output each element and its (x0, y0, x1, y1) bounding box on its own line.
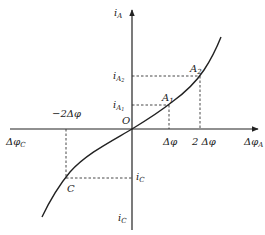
guide-lines (66, 76, 200, 178)
x-negative-label: ΔφC (5, 136, 26, 149)
tick-iA1: iA1 (113, 99, 124, 112)
x-positive-label: ΔφA (243, 136, 263, 149)
tick-2-delta-phi: 2 Δφ (191, 136, 216, 147)
tick-neg-2-delta-phi: −2Δφ (52, 108, 81, 119)
tick-iC: iC (136, 171, 145, 184)
point-A2-label: A2 (189, 63, 202, 76)
diagram-canvas: iA iC ΔφA ΔφC O Δφ 2 Δφ −2Δφ iA2 iA1 iC … (0, 0, 265, 235)
y-negative-label: iC (118, 212, 127, 225)
point-C-label: C (67, 183, 75, 194)
y-positive-label: iA (114, 7, 122, 20)
tick-iA2: iA2 (113, 70, 124, 83)
origin-label: O (122, 115, 130, 126)
point-A1-label: A1 (161, 92, 174, 105)
tick-delta-phi: Δφ (162, 136, 177, 147)
